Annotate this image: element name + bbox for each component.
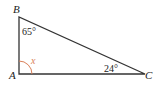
angle-label-c: 24° <box>104 63 118 74</box>
vertex-label-a: A <box>8 69 16 81</box>
angle-label-b: 65° <box>22 26 36 37</box>
triangle-abc <box>19 17 145 74</box>
vertex-label-c: C <box>145 69 153 81</box>
angle-label-a: x <box>30 55 36 66</box>
vertex-label-b: B <box>13 3 20 15</box>
triangle-diagram: B A C 65° 24° x <box>0 0 159 90</box>
